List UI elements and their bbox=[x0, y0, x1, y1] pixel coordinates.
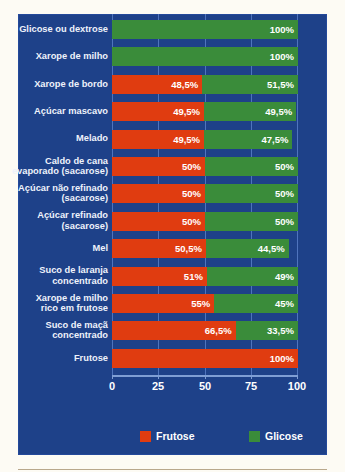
legend-swatch-icon bbox=[249, 431, 260, 442]
x-tick-75 bbox=[251, 375, 252, 379]
category-label-line: concentrado bbox=[0, 330, 108, 341]
bar-segment-frutose: 50% bbox=[112, 212, 205, 231]
bar-segment-frutose: 50,5% bbox=[112, 239, 206, 258]
bar-value-label: 100% bbox=[270, 51, 294, 62]
category-label-line: Suco de laranja bbox=[0, 265, 108, 276]
bar-segment-frutose: 48,5% bbox=[112, 75, 202, 94]
category-label: Xarope de bordo bbox=[0, 79, 108, 90]
bar-segment-frutose: 50% bbox=[112, 157, 205, 176]
category-label-line: Xarope de milho bbox=[0, 293, 108, 304]
category-label-line: rico em frutose bbox=[0, 303, 108, 314]
table-row: 100% bbox=[112, 20, 298, 39]
bar-segment-frutose: 55% bbox=[112, 294, 214, 313]
bar-value-label: 50% bbox=[182, 216, 201, 227]
bar-segment-glicose: 50% bbox=[205, 157, 298, 176]
bar-value-label: 44,5% bbox=[258, 243, 285, 254]
category-label: Mel bbox=[0, 243, 108, 254]
table-row: 100% bbox=[112, 47, 298, 66]
category-label: Glicose ou dextrose bbox=[0, 24, 108, 35]
bar-segment-frutose: 50% bbox=[112, 184, 205, 203]
bar-value-label: 50% bbox=[275, 216, 294, 227]
bar-segment-glicose: 100% bbox=[112, 47, 298, 66]
table-row: 51%49% bbox=[112, 267, 298, 286]
legend-label: Frutose bbox=[156, 430, 195, 442]
category-label-line: Glicose ou dextrose bbox=[0, 24, 108, 35]
x-tick-label-25: 25 bbox=[138, 380, 178, 392]
category-label-line: Caldo de cana bbox=[0, 156, 108, 167]
bar-segment-glicose: 51,5% bbox=[202, 75, 298, 94]
bar-segment-glicose: 45% bbox=[214, 294, 298, 313]
legend-item[interactable]: Frutose bbox=[140, 430, 195, 442]
x-tick-50 bbox=[205, 375, 206, 379]
category-label: Frutose bbox=[0, 353, 108, 364]
table-row: 50%50% bbox=[112, 157, 298, 176]
table-row: 55%45% bbox=[112, 294, 298, 313]
bar-value-label: 51,5% bbox=[267, 79, 294, 90]
x-tick-label-75: 75 bbox=[231, 380, 271, 392]
bottom-rule bbox=[18, 469, 327, 470]
category-label: Suco de laranjaconcentrado bbox=[0, 265, 108, 286]
bar-value-label: 33,5% bbox=[267, 325, 294, 336]
bar-value-label: 48,5% bbox=[171, 79, 198, 90]
table-row: 50,5%44,5% bbox=[112, 239, 298, 258]
category-label-line: (sacarose) bbox=[0, 193, 108, 204]
category-label: Açúcar mascavo bbox=[0, 106, 108, 117]
legend-item[interactable]: Glicose bbox=[249, 430, 303, 442]
category-label: Açúcar refinado(sacarose) bbox=[0, 210, 108, 231]
category-label: Xarope de milhorico em frutose bbox=[0, 293, 108, 314]
bar-segment-glicose: 100% bbox=[112, 20, 298, 39]
category-label-line: Xarope de bordo bbox=[0, 79, 108, 90]
bar-segment-glicose: 49,5% bbox=[204, 102, 296, 121]
category-label-line: Açúcar refinado bbox=[0, 210, 108, 221]
bar-value-label: 100% bbox=[270, 353, 294, 364]
category-label-line: Mel bbox=[0, 243, 108, 254]
table-row: 49,5%47,5% bbox=[112, 130, 298, 149]
table-row: 100% bbox=[112, 349, 298, 368]
bar-value-label: 49% bbox=[275, 271, 294, 282]
table-row: 50%50% bbox=[112, 184, 298, 203]
bar-segment-glicose: 33,5% bbox=[236, 321, 298, 340]
bar-segment-glicose: 47,5% bbox=[204, 130, 292, 149]
category-label-line: Xarope de milho bbox=[0, 51, 108, 62]
legend-swatch-icon bbox=[140, 431, 151, 442]
category-label: Melado bbox=[0, 133, 108, 144]
bar-value-label: 49,5% bbox=[173, 106, 200, 117]
x-tick-25 bbox=[158, 375, 159, 379]
bar-value-label: 50% bbox=[182, 188, 201, 199]
x-tick-label-0: 0 bbox=[92, 380, 132, 392]
table-row: 48,5%51,5% bbox=[112, 75, 298, 94]
bar-value-label: 45% bbox=[275, 298, 294, 309]
bar-value-label: 55% bbox=[191, 298, 210, 309]
bar-value-label: 50% bbox=[275, 188, 294, 199]
bar-value-label: 50% bbox=[275, 161, 294, 172]
category-label: Xarope de milho bbox=[0, 51, 108, 62]
category-label-line: Suco de maçã bbox=[0, 320, 108, 331]
category-label-line: Frutose bbox=[0, 353, 108, 364]
category-label: Caldo de canaevaporado (sacarose) bbox=[0, 156, 108, 177]
bar-value-label: 47,5% bbox=[261, 134, 288, 145]
bar-value-label: 66,5% bbox=[205, 325, 232, 336]
chart-legend: FrutoseGlicose bbox=[112, 430, 312, 446]
category-label: Açúcar não refinado(sacarose) bbox=[0, 183, 108, 204]
bar-segment-glicose: 50% bbox=[205, 184, 298, 203]
bar-value-label: 49,5% bbox=[265, 106, 292, 117]
bar-value-label: 50% bbox=[182, 161, 201, 172]
bar-segment-frutose: 49,5% bbox=[112, 130, 204, 149]
x-tick-100 bbox=[297, 375, 298, 379]
table-row: 50%50% bbox=[112, 212, 298, 231]
bar-segment-frutose: 51% bbox=[112, 267, 207, 286]
bar-value-label: 100% bbox=[270, 24, 294, 35]
bar-segment-frutose: 100% bbox=[112, 349, 298, 368]
x-tick-label-100: 100 bbox=[277, 380, 317, 392]
chart-figure: 0 25 50 75 100 Glicose ou dextrose100%Xa… bbox=[0, 0, 345, 472]
category-label-line: concentrado bbox=[0, 276, 108, 287]
bar-segment-glicose: 49% bbox=[207, 267, 298, 286]
category-label-line: Açúcar não refinado bbox=[0, 183, 108, 194]
category-label: Suco de maçãconcentrado bbox=[0, 320, 108, 341]
x-tick-label-50: 50 bbox=[185, 380, 225, 392]
category-label-line: evaporado (sacarose) bbox=[0, 166, 108, 177]
table-row: 49,5%49,5% bbox=[112, 102, 298, 121]
bar-value-label: 50,5% bbox=[175, 243, 202, 254]
bar-segment-glicose: 50% bbox=[205, 212, 298, 231]
legend-label: Glicose bbox=[265, 430, 303, 442]
